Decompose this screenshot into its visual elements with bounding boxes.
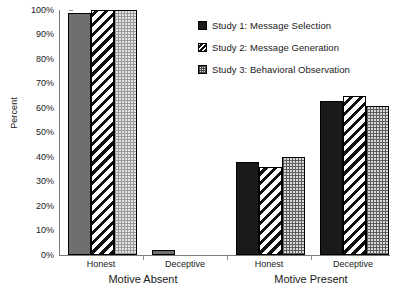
y-tick-label-10: 10% [14, 226, 54, 235]
bar-study3 [282, 157, 305, 255]
bar-study2 [91, 10, 114, 255]
y-tick-label-60: 60% [14, 104, 54, 113]
bar-study2 [343, 96, 366, 255]
y-tick-label-40: 40% [14, 153, 54, 162]
legend-item-study1: Study 1: Message Selection [198, 14, 394, 36]
y-axis-ticks: 100% 90% 80% 70% 60% 50% 40% 30% 20% 10%… [14, 0, 54, 298]
x-label-motive-present-deceptive: Deceptive [311, 259, 395, 269]
y-tick-label-90: 90% [14, 30, 54, 39]
bar-study2 [259, 167, 282, 255]
x-label-motive-present-honest: Honest [227, 259, 311, 269]
legend-label-study3: Study 3: Behavioral Observation [212, 64, 350, 75]
y-tick-label-0: 0% [14, 251, 54, 260]
solid-black-square-icon [198, 21, 207, 30]
bar-study1 [236, 162, 259, 255]
legend-label-study1: Study 1: Message Selection [212, 20, 331, 31]
diagonal-hatch-square-icon [198, 43, 207, 52]
bar-study3 [114, 10, 137, 255]
legend-item-study3: Study 3: Behavioral Observation [198, 58, 394, 80]
y-tick-label-20: 20% [14, 202, 54, 211]
y-tick-label-100: 100% [14, 6, 54, 15]
checkered-square-icon [198, 65, 207, 74]
x-group-label-motive-absent: Motive Absent [59, 273, 227, 285]
bar-study1 [68, 13, 91, 256]
bar-study1 [152, 250, 175, 255]
chart-legend: Study 1: Message Selection Study 2: Mess… [198, 14, 394, 80]
bar-study3 [366, 106, 389, 255]
bar-study1 [320, 101, 343, 255]
y-tick-label-50: 50% [14, 128, 54, 137]
x-group-label-motive-present: Motive Present [227, 273, 395, 285]
legend-label-study2: Study 2: Message Generation [212, 42, 339, 53]
legend-item-study2: Study 2: Message Generation [198, 36, 394, 58]
x-label-motive-absent-deceptive: Deceptive [143, 259, 227, 269]
y-tick-label-80: 80% [14, 55, 54, 64]
x-label-motive-absent-honest: Honest [59, 259, 143, 269]
y-tick-label-70: 70% [14, 79, 54, 88]
bar-chart: Percent 100% 90% 80% 70% 60% 50% 40% 30%… [0, 0, 398, 298]
y-tick-label-30: 30% [14, 177, 54, 186]
bar-group-motive-absent-honest [60, 10, 144, 255]
